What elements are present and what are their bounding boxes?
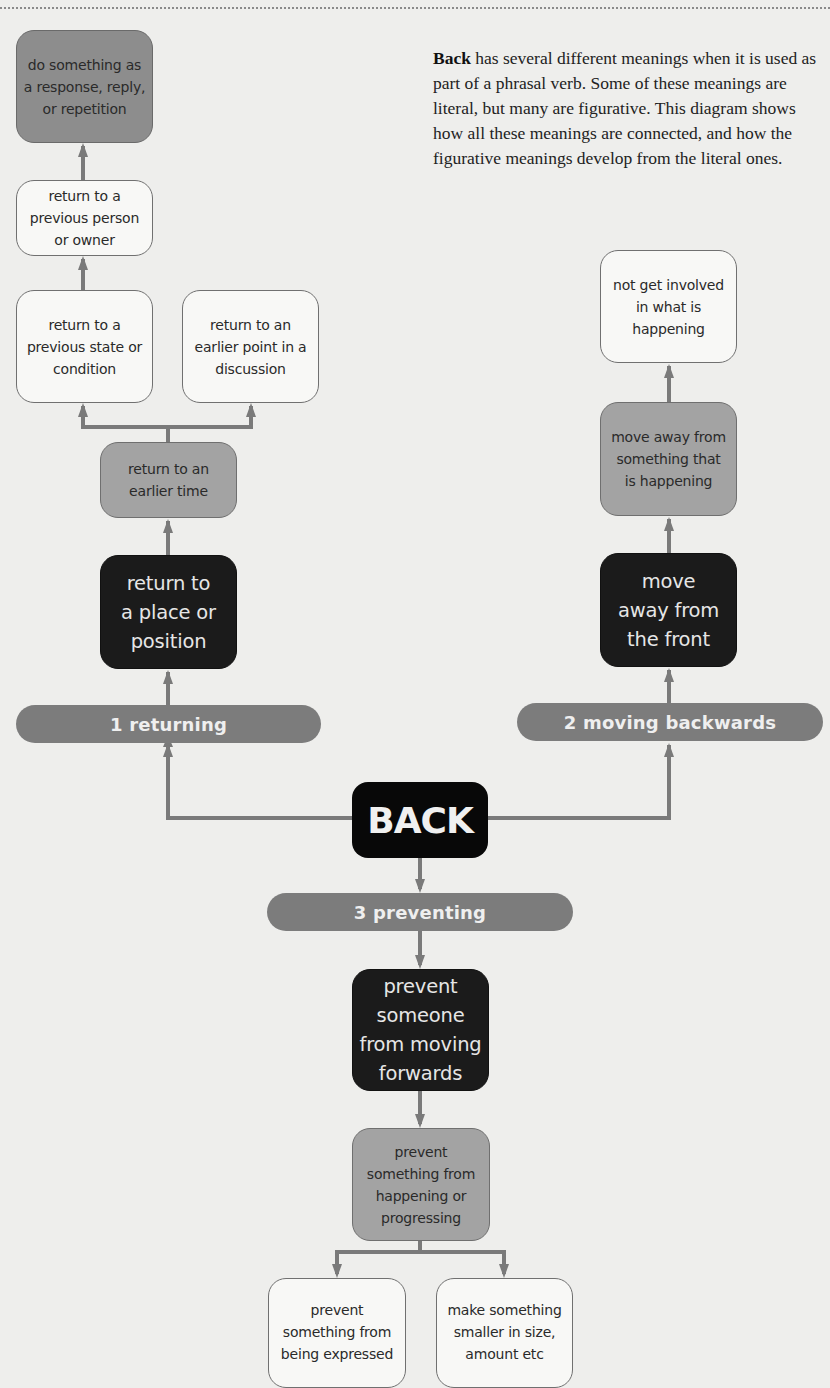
node-make-smaller: make something smaller in size, amount e… bbox=[436, 1278, 573, 1388]
node-label: move away from the front bbox=[618, 567, 719, 654]
node-not-get-involved: not get involved in what is happening bbox=[600, 250, 737, 363]
category-pill-moving-backwards: 2 moving backwards bbox=[517, 703, 823, 741]
node-response-reply-repetition: do something as a response, reply, or re… bbox=[16, 30, 153, 143]
node-place-position: return to a place or position bbox=[100, 555, 237, 669]
node-prevent-moving-forwards: prevent someone from moving forwards bbox=[352, 969, 489, 1091]
node-label: prevent something from happening or prog… bbox=[367, 1141, 475, 1229]
node-label: move away from something that is happeni… bbox=[611, 426, 726, 492]
node-label: return to an earlier point in a discussi… bbox=[195, 314, 307, 380]
category-pill-returning: 1 returning bbox=[16, 705, 321, 743]
node-label: prevent someone from moving forwards bbox=[360, 972, 482, 1088]
node-label: do something as a response, reply, or re… bbox=[24, 54, 146, 120]
node-label: return to a place or position bbox=[121, 569, 216, 656]
node-label: return to a previous state or condition bbox=[27, 314, 142, 380]
node-previous-person-owner: return to a previous person or owner bbox=[16, 180, 153, 256]
node-label: return to a previous person or owner bbox=[30, 185, 139, 251]
node-prevent-happening-progressing: prevent something from happening or prog… bbox=[352, 1128, 490, 1241]
node-label: make something smaller in size, amount e… bbox=[447, 1299, 561, 1365]
category-pill-preventing: 3 preventing bbox=[267, 893, 573, 931]
node-label: return to an earlier time bbox=[128, 458, 209, 502]
node-move-away-front: move away from the front bbox=[600, 553, 737, 667]
node-previous-state-condition: return to a previous state or condition bbox=[16, 290, 153, 403]
node-move-away-happening: move away from something that is happeni… bbox=[600, 402, 737, 516]
center-node-back: BACK bbox=[352, 782, 488, 858]
node-earlier-point-discussion: return to an earlier point in a discussi… bbox=[182, 290, 319, 403]
arrow-back-to-returning bbox=[168, 745, 352, 818]
node-earlier-time: return to an earlier time bbox=[100, 442, 237, 518]
node-prevent-expressed: prevent something from being expressed bbox=[268, 1278, 406, 1388]
node-label: not get involved in what is happening bbox=[613, 274, 724, 340]
node-label: prevent something from being expressed bbox=[281, 1299, 393, 1365]
